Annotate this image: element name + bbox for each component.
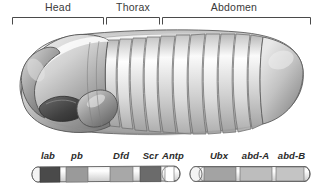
gene-label-pb: pb [63, 150, 91, 161]
hox-gene-figure: Head Thorax Abdomen lab pb Dfd Scr Antp … [0, 0, 322, 188]
gene-bar-antennapedia-complex [32, 166, 180, 182]
gene-bar-bithorax-complex [190, 167, 310, 182]
gene-label-ubx: Ubx [204, 150, 234, 161]
embryo-illustration [20, 30, 303, 136]
gene-label-abd-a: abd-A [235, 150, 276, 161]
region-label-head: Head [18, 1, 98, 13]
gene-label-dfd: Dfd [107, 150, 135, 161]
region-label-abdomen: Abdomen [194, 1, 274, 13]
embryo-segments [105, 34, 263, 134]
region-label-thorax: Thorax [103, 1, 163, 13]
bracket-abdomen [163, 18, 311, 25]
gene-label-lab: lab [33, 150, 63, 161]
bracket-thorax [107, 18, 160, 25]
gene-label-abd-b: abd-B [271, 150, 312, 161]
gene-label-antp: Antp [157, 150, 189, 161]
bracket-head [13, 18, 104, 25]
